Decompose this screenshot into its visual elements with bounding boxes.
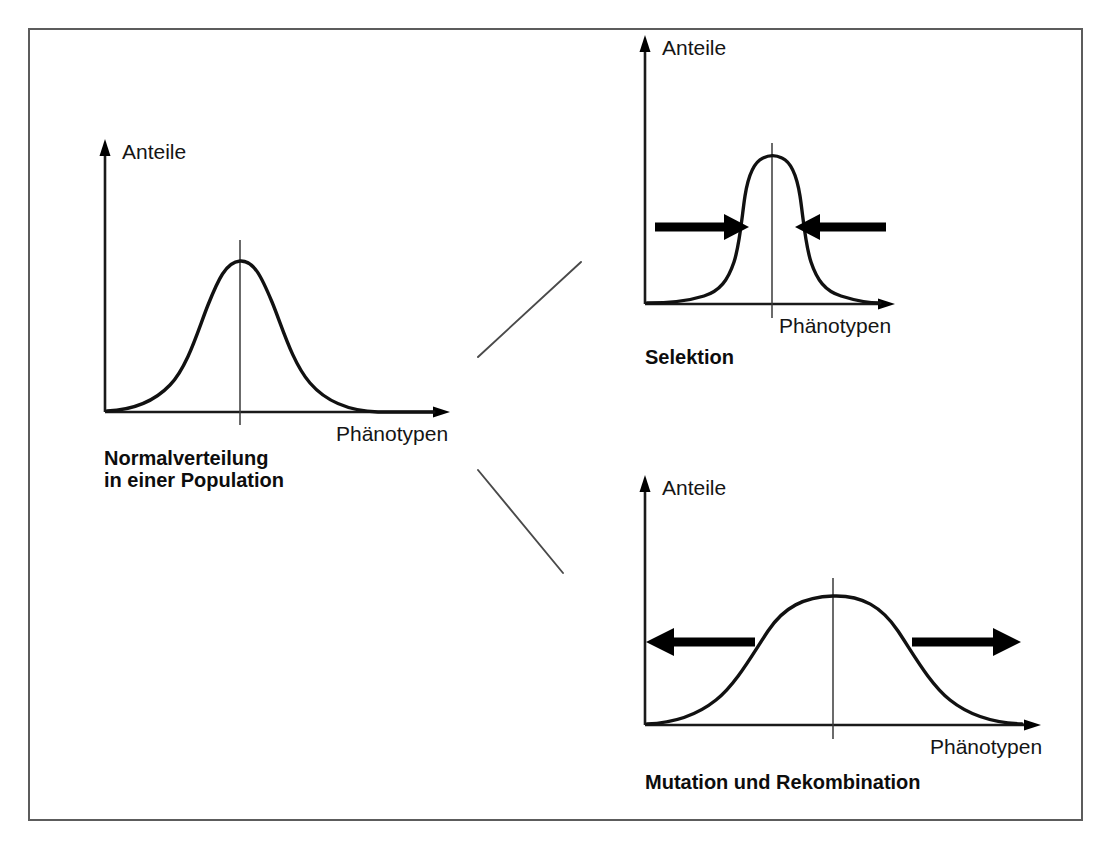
diagram-root: Anteile Phänotypen Normalverteilung in e… [0, 0, 1107, 845]
x-axis-label: Phänotypen [336, 422, 448, 445]
population-genetics-diagram: Anteile Phänotypen Normalverteilung in e… [0, 0, 1107, 845]
y-axis-label: Anteile [662, 476, 726, 499]
canvas-background [0, 0, 1107, 845]
x-axis-label: Phänotypen [930, 735, 1042, 758]
panel-caption-line1: Normalverteilung [104, 447, 268, 469]
panel-caption-line1: Selektion [645, 346, 734, 368]
x-axis-label: Phänotypen [779, 314, 891, 337]
panel-caption-line1: Mutation und Rekombination [645, 771, 921, 793]
panel-caption-line2: in einer Population [104, 469, 284, 491]
y-axis-label: Anteile [122, 140, 186, 163]
y-axis-label: Anteile [662, 36, 726, 59]
